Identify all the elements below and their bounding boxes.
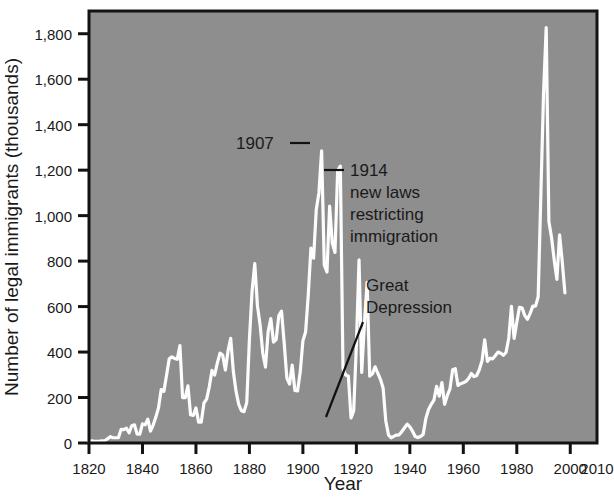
y-tick-label: 1,200 — [34, 162, 72, 179]
annotation-1907-label: 1907 — [236, 134, 274, 153]
y-tick-label: 1,000 — [34, 208, 72, 225]
annotation-1914-line4: immigration — [350, 227, 438, 246]
y-tick-label: 400 — [47, 344, 72, 361]
x-tick-label: 1900 — [286, 460, 319, 477]
y-axis-ticks — [78, 34, 89, 443]
y-tick-label: 1,400 — [34, 117, 72, 134]
x-tick-label: 1860 — [179, 460, 212, 477]
y-tick-label: 800 — [47, 253, 72, 270]
x-axis-ticks — [89, 443, 570, 454]
x-tick-label: 1940 — [393, 460, 426, 477]
y-tick-label: 600 — [47, 299, 72, 316]
annotation-1914-year: 1914 — [350, 161, 388, 180]
y-axis-title: Number of legal immigrants (thousands) — [1, 58, 22, 396]
x-axis-title: Year — [324, 473, 363, 494]
annotation-1914-line2: new laws — [350, 183, 420, 202]
x-tick-label: 1820 — [72, 460, 105, 477]
y-tick-label: 200 — [47, 390, 72, 407]
annotation-depression-line2: Depression — [366, 298, 452, 317]
y-tick-label: 1,600 — [34, 71, 72, 88]
x-tick-label: 1960 — [447, 460, 480, 477]
y-axis-tick-labels: 02004006008001,0001,2001,4001,6001,800 — [34, 26, 72, 452]
x-tick-label: 1980 — [500, 460, 533, 477]
y-tick-label: 0 — [64, 435, 72, 452]
chart-canvas: 02004006008001,0001,2001,4001,6001,800 1… — [0, 0, 614, 498]
immigration-chart-figure: 02004006008001,0001,2001,4001,6001,800 1… — [0, 0, 614, 498]
annotation-depression-line1: Great — [366, 276, 409, 295]
x-tick-label: 1840 — [126, 460, 159, 477]
x-tick-label: 2010 — [580, 460, 613, 477]
x-tick-label: 1880 — [233, 460, 266, 477]
annotation-1914-line3: restricting — [350, 205, 424, 224]
y-tick-label: 1,800 — [34, 26, 72, 43]
